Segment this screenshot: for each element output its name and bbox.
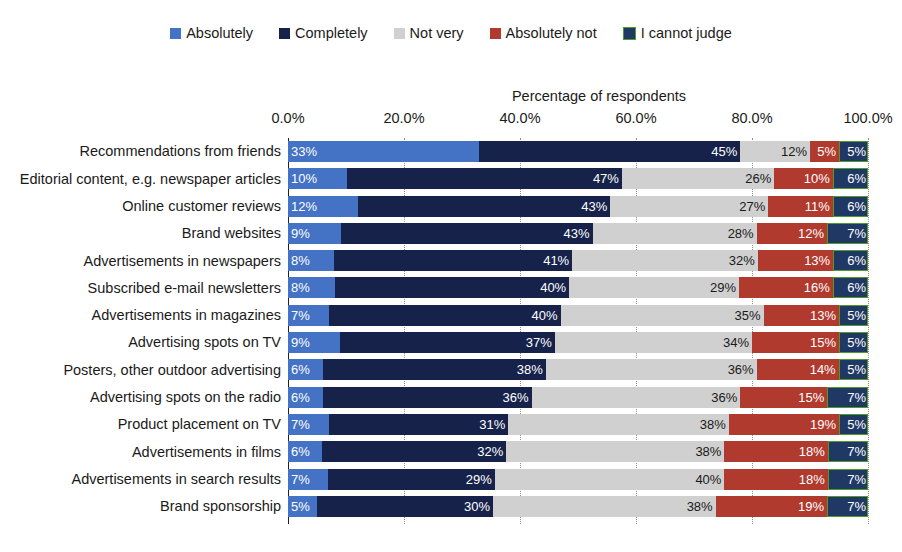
- bar-segment-value: 34%: [723, 336, 752, 349]
- bar-segment-2[interactable]: 31%: [329, 414, 509, 435]
- category-label: Advertising spots on the radio: [0, 390, 288, 405]
- bar-segment-4[interactable]: 15%: [740, 387, 827, 408]
- stacked-bar[interactable]: 7%31%38%19%5%: [288, 414, 868, 435]
- bar-segment-4[interactable]: 18%: [724, 441, 827, 462]
- bar-segment-4[interactable]: 18%: [724, 469, 827, 490]
- bar-segment-3[interactable]: 36%: [546, 359, 757, 380]
- bar-segment-2[interactable]: 47%: [347, 168, 622, 189]
- bar-segment-4[interactable]: 15%: [752, 332, 839, 353]
- bar-segment-5[interactable]: 6%: [833, 250, 868, 271]
- stacked-bar[interactable]: 33%45%12%5%5%: [288, 141, 868, 162]
- bar-segment-5[interactable]: 6%: [833, 168, 868, 189]
- stacked-bar[interactable]: 7%29%40%18%7%: [288, 469, 868, 490]
- bar-segment-1[interactable]: 6%: [288, 441, 322, 462]
- bar-segment-3[interactable]: 27%: [610, 196, 768, 217]
- bar-segment-5[interactable]: 5%: [839, 305, 868, 326]
- bar-segment-1[interactable]: 5%: [288, 496, 317, 517]
- stacked-bar[interactable]: 9%37%34%15%5%: [288, 332, 868, 353]
- stacked-bar[interactable]: 5%30%38%19%7%: [288, 496, 868, 517]
- bar-segment-3[interactable]: 35%: [561, 305, 764, 326]
- bar-segment-1[interactable]: 8%: [288, 250, 334, 271]
- bar-segment-5[interactable]: 7%: [827, 387, 868, 408]
- legend-item-0[interactable]: Absolutely: [170, 26, 253, 41]
- stacked-bar[interactable]: 8%41%32%13%6%: [288, 250, 868, 271]
- bar-area: 7%29%40%18%7%: [288, 466, 868, 493]
- bar-segment-5[interactable]: 7%: [827, 496, 868, 517]
- bar-segment-1[interactable]: 33%: [288, 141, 479, 162]
- bar-segment-2[interactable]: 43%: [341, 223, 593, 244]
- bar-segment-5[interactable]: 5%: [839, 141, 868, 162]
- bar-segment-5[interactable]: 5%: [839, 332, 868, 353]
- bar-segment-3[interactable]: 40%: [495, 469, 725, 490]
- bar-segment-5[interactable]: 7%: [828, 469, 868, 490]
- bar-segment-2[interactable]: 41%: [334, 250, 572, 271]
- stacked-bar[interactable]: 6%36%36%15%7%: [288, 387, 868, 408]
- legend-item-3[interactable]: Absolutely not: [490, 26, 597, 41]
- bar-segment-2[interactable]: 29%: [328, 469, 495, 490]
- stacked-bar[interactable]: 6%38%36%14%5%: [288, 359, 868, 380]
- bar-segment-3[interactable]: 36%: [532, 387, 741, 408]
- bar-segment-2[interactable]: 43%: [358, 196, 610, 217]
- bar-segment-1[interactable]: 7%: [288, 414, 329, 435]
- chart-row: Product placement on TV7%31%38%19%5%: [0, 411, 902, 438]
- bar-segment-4[interactable]: 13%: [758, 250, 833, 271]
- bar-segment-5[interactable]: 7%: [828, 441, 868, 462]
- bar-segment-4[interactable]: 10%: [774, 168, 833, 189]
- stacked-bar[interactable]: 7%40%35%13%5%: [288, 305, 868, 326]
- legend-item-2[interactable]: Not very: [394, 26, 464, 41]
- bar-segment-3[interactable]: 26%: [622, 168, 774, 189]
- stacked-bar[interactable]: 12%43%27%11%6%: [288, 196, 868, 217]
- bar-segment-3[interactable]: 34%: [555, 332, 752, 353]
- chart-row: Brand sponsorship5%30%38%19%7%: [0, 493, 902, 520]
- bar-segment-value: 19%: [798, 500, 827, 513]
- bar-segment-4[interactable]: 19%: [716, 496, 827, 517]
- stacked-bar[interactable]: 9%43%28%12%7%: [288, 223, 868, 244]
- bar-segment-4[interactable]: 14%: [757, 359, 839, 380]
- bar-segment-2[interactable]: 37%: [340, 332, 555, 353]
- bar-segment-5[interactable]: 5%: [839, 414, 868, 435]
- bar-segment-1[interactable]: 7%: [288, 305, 329, 326]
- bar-segment-2[interactable]: 32%: [322, 441, 506, 462]
- bar-segment-3[interactable]: 29%: [569, 277, 739, 298]
- bar-segment-1[interactable]: 6%: [288, 387, 323, 408]
- legend-item-4[interactable]: I cannot judge: [623, 26, 732, 41]
- bar-segment-4[interactable]: 12%: [757, 223, 827, 244]
- stacked-bar[interactable]: 8%40%29%16%6%: [288, 277, 868, 298]
- bar-segment-3[interactable]: 28%: [593, 223, 757, 244]
- bar-segment-2[interactable]: 38%: [323, 359, 546, 380]
- bar-segment-5[interactable]: 5%: [839, 359, 868, 380]
- bar-segment-1[interactable]: 12%: [288, 196, 358, 217]
- bar-segment-4[interactable]: 5%: [810, 141, 839, 162]
- bar-segment-5[interactable]: 6%: [833, 196, 868, 217]
- bar-segment-3[interactable]: 38%: [506, 441, 724, 462]
- bar-segment-1[interactable]: 9%: [288, 332, 340, 353]
- legend-item-1[interactable]: Completely: [279, 26, 368, 41]
- bar-segment-4[interactable]: 19%: [729, 414, 839, 435]
- bar-segment-3[interactable]: 38%: [493, 496, 716, 517]
- bar-segment-value: 6%: [847, 172, 867, 185]
- bar-segment-2[interactable]: 45%: [479, 141, 740, 162]
- bar-segment-2[interactable]: 30%: [317, 496, 493, 517]
- category-label: Advertising spots on TV: [0, 335, 288, 350]
- bar-segment-3[interactable]: 32%: [572, 250, 758, 271]
- legend-swatch-icon: [170, 28, 181, 39]
- bar-segment-1[interactable]: 8%: [288, 277, 335, 298]
- bar-segment-2[interactable]: 40%: [329, 305, 561, 326]
- bar-segment-1[interactable]: 10%: [288, 168, 347, 189]
- bar-segment-3[interactable]: 38%: [508, 414, 728, 435]
- bar-segment-2[interactable]: 40%: [335, 277, 569, 298]
- bar-segment-1[interactable]: 9%: [288, 223, 341, 244]
- bar-segment-5[interactable]: 7%: [827, 223, 868, 244]
- category-label: Advertisements in newspapers: [0, 254, 288, 269]
- bar-segment-2[interactable]: 36%: [323, 387, 532, 408]
- bar-segment-3[interactable]: 12%: [740, 141, 810, 162]
- bar-segment-1[interactable]: 6%: [288, 359, 323, 380]
- bar-segment-4[interactable]: 11%: [768, 196, 832, 217]
- bar-segment-1[interactable]: 7%: [288, 469, 328, 490]
- bar-segment-value: 7%: [847, 473, 867, 486]
- bar-segment-5[interactable]: 6%: [833, 277, 868, 298]
- bar-segment-4[interactable]: 16%: [739, 277, 833, 298]
- stacked-bar[interactable]: 10%47%26%10%6%: [288, 168, 868, 189]
- bar-segment-4[interactable]: 13%: [764, 305, 839, 326]
- stacked-bar[interactable]: 6%32%38%18%7%: [288, 441, 868, 462]
